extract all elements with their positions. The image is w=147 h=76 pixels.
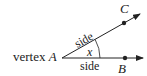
- point-c-dot: [122, 21, 126, 25]
- angle-figure: vertex A C B side side x: [0, 0, 147, 76]
- angle-label: x: [86, 45, 93, 59]
- angle-diagram: vertex A C B side side x: [0, 0, 147, 76]
- point-b-label: B: [118, 61, 126, 76]
- point-c-label: C: [120, 1, 129, 16]
- ray-ac: [62, 14, 140, 58]
- side-lower-label: side: [80, 59, 99, 73]
- angle-arc: [95, 39, 100, 58]
- point-b-dot: [123, 56, 127, 60]
- vertex-label: vertex A: [13, 49, 57, 64]
